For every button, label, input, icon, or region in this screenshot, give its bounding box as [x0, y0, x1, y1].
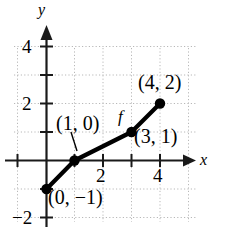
y-tick-label-4: 4	[22, 37, 32, 56]
y-tick-label-2: 2	[22, 94, 32, 113]
coordinate-plane	[0, 0, 232, 227]
data-point-1	[69, 155, 79, 165]
y-tick-label-neg2: −2	[12, 208, 32, 227]
callout-leader-line	[71, 132, 77, 151]
y-axis-arrow	[41, 25, 53, 40]
point-label-0-neg1: (0, −1)	[48, 187, 103, 207]
function-label: f	[118, 108, 123, 125]
point-label-4-2: (4, 2)	[138, 72, 181, 92]
x-tick-label-4: 4	[153, 166, 163, 185]
x-axis-arrow	[183, 155, 196, 167]
y-axis-label: y	[38, 2, 45, 18]
x-tick-label-2: 2	[96, 166, 106, 185]
point-label-1-0: (1, 0)	[56, 113, 99, 133]
data-point-3	[155, 98, 165, 108]
x-axis-label: x	[200, 152, 207, 168]
graph-figure: y x f 4 2 −2 2 4 (1, 0) (0, −1) (3, 1) (…	[0, 0, 232, 227]
point-label-3-1: (3, 1)	[134, 126, 177, 146]
